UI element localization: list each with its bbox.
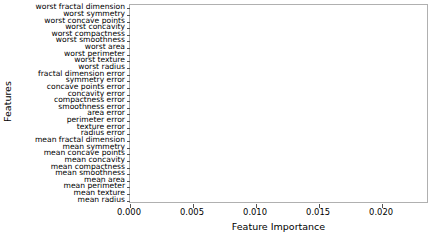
x-tick-label: 0.000 (117, 207, 141, 217)
y-axis-tick-labels: mean radiusmean texturemean perimetermea… (0, 4, 125, 203)
y-tick-mark (127, 168, 131, 169)
y-tick-mark (127, 101, 131, 102)
y-tick-mark (127, 68, 131, 69)
y-tick-mark (127, 174, 131, 175)
y-tick-mark (127, 141, 131, 142)
y-tick-mark (127, 121, 131, 122)
y-tick-mark (127, 114, 131, 115)
bar (130, 19, 143, 24)
y-tick-mark (127, 41, 131, 42)
y-tick-mark (127, 128, 131, 129)
y-tick-mark (127, 61, 131, 62)
x-axis-tick-labels: 0.0000.0050.0100.0150.020 (129, 207, 428, 219)
bar (130, 45, 142, 50)
y-tick-mark (127, 15, 131, 16)
y-tick-mark (127, 148, 131, 149)
plot-axes (129, 4, 428, 203)
bar (130, 152, 211, 157)
y-tick-mark (127, 55, 131, 56)
bar (130, 59, 263, 64)
plot-area (130, 5, 427, 202)
y-tick-mark (127, 28, 131, 29)
y-tick-mark (127, 134, 131, 135)
y-tick-label: worst fractal dimension (36, 3, 125, 11)
y-tick-mark (127, 95, 131, 96)
bar (130, 52, 417, 57)
y-tick-mark (127, 108, 131, 109)
y-tick-mark (127, 81, 131, 82)
y-tick-mark (127, 8, 131, 9)
x-tick-label: 0.015 (306, 207, 330, 217)
y-tick-mark (127, 35, 131, 36)
x-axis-title: Feature Importance (129, 221, 428, 232)
y-tick-mark (127, 201, 131, 202)
y-tick-mark (127, 75, 131, 76)
x-tick-label: 0.020 (369, 207, 393, 217)
x-tick-label: 0.010 (243, 207, 267, 217)
bar (130, 112, 153, 117)
y-tick-mark (127, 194, 131, 195)
bar (130, 191, 137, 196)
y-tick-mark (127, 88, 131, 89)
y-tick-mark (127, 48, 131, 49)
x-tick-label: 0.005 (180, 207, 204, 217)
y-tick-mark (127, 187, 131, 188)
y-tick-mark (127, 181, 131, 182)
y-tick-mark (127, 22, 131, 23)
y-tick-mark (127, 161, 131, 162)
y-tick-mark (127, 154, 131, 155)
bar (130, 171, 140, 176)
feature-importance-chart: Features mean radiusmean texturemean per… (0, 0, 436, 241)
